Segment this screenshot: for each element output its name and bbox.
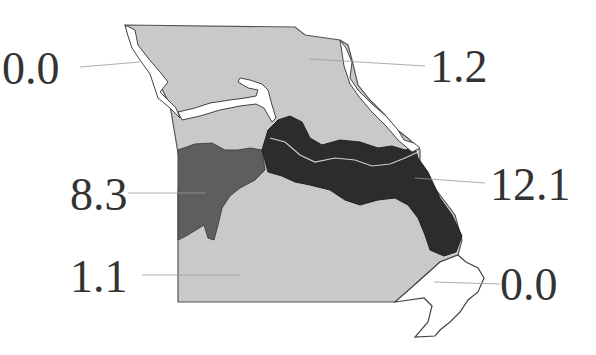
label-west: 8.3 [70, 172, 128, 218]
label-south: 1.1 [70, 254, 128, 300]
map-figure: 0.0 1.2 8.3 12.1 1.1 0.0 [0, 0, 596, 355]
leader-northwest [80, 62, 140, 67]
label-corridor: 12.1 [490, 162, 571, 208]
label-north: 1.2 [430, 44, 488, 90]
label-bootheel: 0.0 [500, 262, 558, 308]
label-northwest: 0.0 [2, 46, 60, 92]
